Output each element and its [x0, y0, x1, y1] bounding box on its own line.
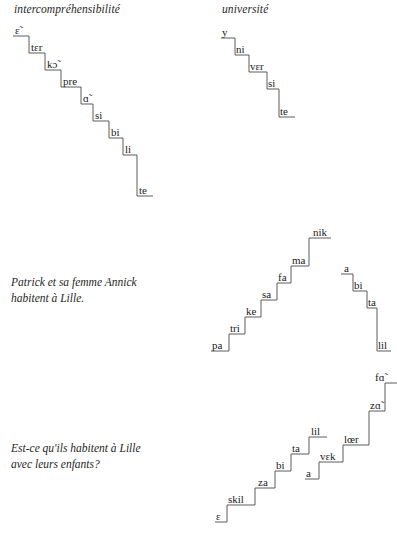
- syllable-label: lil: [311, 425, 320, 437]
- worksheet-page: intercompréhensibilité université Patric…: [0, 0, 397, 534]
- syllable-label: si: [95, 109, 102, 121]
- syllable-label: a: [344, 262, 349, 274]
- syllable-label: ɛ: [216, 510, 221, 522]
- syllable-label: fɑ̃: [375, 371, 388, 383]
- contour-line: [13, 36, 153, 196]
- syllable-label: si: [268, 77, 275, 89]
- syllable-label: y: [222, 26, 228, 38]
- syllable-label: ta: [368, 296, 376, 308]
- syllable-label: bi: [111, 126, 120, 138]
- syllable-label: ma: [292, 254, 306, 266]
- syllable-label: pre: [63, 75, 77, 87]
- syllable-label: ɑ̃: [83, 92, 93, 104]
- contour-est-ce-quils-rise: ɛ skil za bi ta lil: [215, 425, 327, 522]
- syllable-label: za: [258, 476, 268, 488]
- contour-universite: y ni vɛr si te: [221, 26, 295, 117]
- syllable-label: nik: [313, 226, 328, 238]
- syllable-label: te: [280, 105, 288, 117]
- contour-line: [305, 383, 397, 479]
- syllable-label: tɛr: [31, 41, 43, 53]
- syllable-label: vɛr: [250, 60, 264, 72]
- contour-line: [215, 437, 327, 522]
- syllable-label: lœr: [344, 433, 359, 445]
- contour-patrick-annick-rise: pa tri ke sa fa ma nik: [211, 226, 331, 351]
- syllable-label: lil: [378, 339, 387, 351]
- gloss-est-ce-quils: Est-ce qu'ils habitent à Lille avec leur…: [11, 440, 141, 472]
- syllable-label: ɛ̃: [15, 24, 24, 36]
- syllable-label: ke: [246, 305, 257, 317]
- syllable-label: ni: [236, 43, 245, 55]
- heading-universite: université: [222, 3, 268, 15]
- contour-intercomprehensibilite: ɛ̃ tɛr kɔ̃ pre ɑ̃ si bi li te: [13, 24, 153, 196]
- syllable-label: pa: [212, 339, 223, 351]
- syllable-label: vɛk: [320, 450, 336, 462]
- syllable-label: skil: [228, 493, 244, 505]
- syllable-label: li: [125, 143, 131, 155]
- contour-habitent-a-lille: a bi ta lil: [341, 262, 391, 351]
- syllable-label: fa: [278, 271, 287, 283]
- syllable-label: bi: [354, 279, 363, 291]
- contour-line: [221, 38, 295, 117]
- syllable-label: sa: [262, 288, 271, 300]
- syllable-label: a: [306, 467, 311, 479]
- syllable-label: ta: [292, 442, 300, 454]
- heading-intercomprehensibilite: intercompréhensibilité: [14, 3, 120, 15]
- syllable-label: zɑ̃: [370, 399, 385, 411]
- syllable-label: bi: [276, 459, 285, 471]
- contour-avec-leurs-enfants: a vɛk lœr zɑ̃ fɑ̃: [305, 371, 397, 479]
- syllable-label: tri: [230, 322, 240, 334]
- syllable-label: te: [139, 184, 147, 196]
- contour-line: [211, 238, 331, 351]
- contour-line: [341, 274, 391, 351]
- syllable-label: kɔ̃: [47, 58, 61, 70]
- gloss-patrick-annick: Patrick et sa femme Annick habitent à Li…: [11, 274, 137, 306]
